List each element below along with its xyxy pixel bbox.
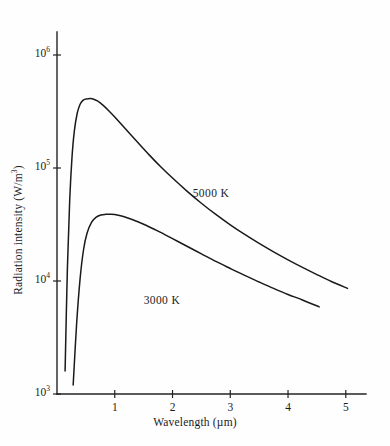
y-axis-title-suffix: ) xyxy=(12,165,24,169)
x-tick-label: 5 xyxy=(326,401,366,413)
blackbody-radiation-figure: 103104105106 12345 5000 K 3000 K Wavelen… xyxy=(0,0,390,446)
plot-canvas xyxy=(0,0,390,446)
x-tick-label: 4 xyxy=(268,401,308,413)
x-tick-label: 3 xyxy=(210,401,250,413)
x-axis-title: Wavelength (µm) xyxy=(0,416,390,428)
x-tick-label: 1 xyxy=(95,401,135,413)
series-annotation-3000k: 3000 K xyxy=(144,294,181,306)
series-annotation-5000k: 5000 K xyxy=(193,187,230,199)
y-tick-label: 103 xyxy=(6,386,50,398)
y-axis-title: Radiation intensity (W/m3) xyxy=(12,126,24,334)
curve-5000k xyxy=(65,99,347,371)
y-axis-title-prefix: Radiation intensity (W/m xyxy=(12,173,24,295)
data-curves xyxy=(65,99,347,386)
curve-3000k xyxy=(73,214,319,385)
axes xyxy=(57,32,366,394)
y-tick-label: 106 xyxy=(6,47,50,59)
y-axis-title-exponent: 3 xyxy=(10,169,19,173)
x-tick-label: 2 xyxy=(153,401,193,413)
